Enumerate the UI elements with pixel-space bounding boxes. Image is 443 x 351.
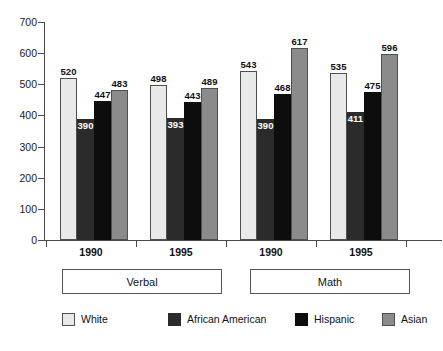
x-tick-separator <box>316 240 317 247</box>
bar-asian-math-1995 <box>381 54 398 240</box>
legend-item-asian: Asian <box>382 310 427 328</box>
plot-area: 5203904474834983934434895433904686175354… <box>44 22 443 240</box>
bar-value-label: 520 <box>58 67 79 77</box>
subject-box-verbal: Verbal <box>62 269 222 294</box>
bar-chart: 0100200300400500600700 52039044748349839… <box>0 0 443 351</box>
bar-asian-math-1990 <box>291 48 308 240</box>
x-tick-separator <box>406 240 407 247</box>
chart-legend: WhiteAfrican AmericanHispanicAsian <box>0 310 443 332</box>
x-tick-separator <box>136 240 137 247</box>
y-tick-label-500: 500 <box>5 79 37 89</box>
x-tick-separator <box>226 240 227 247</box>
bar-value-label: 543 <box>238 60 259 70</box>
bar-value-label: 535 <box>328 62 349 72</box>
y-tick-label-200: 200 <box>5 173 37 183</box>
x-axis-year-label: 1990 <box>46 247 136 258</box>
x-axis-year-label: 1995 <box>136 247 226 258</box>
legend-swatch-hispanic <box>295 313 308 326</box>
bar-white-verbal-1995 <box>150 85 167 240</box>
y-tick-label-0: 0 <box>5 235 37 245</box>
bar-african-american-math-1990 <box>257 119 274 240</box>
bar-value-label: 498 <box>148 74 169 84</box>
y-tick-0 <box>38 240 45 241</box>
bar-value-label: 475 <box>362 81 383 91</box>
bar-hispanic-math-1995 <box>364 92 381 240</box>
bar-african-american-verbal-1990 <box>77 119 94 240</box>
legend-label: African American <box>187 313 266 325</box>
bar-value-label: 617 <box>289 37 310 47</box>
x-axis-year-label: 1995 <box>316 247 406 258</box>
bar-african-american-math-1995 <box>347 112 364 240</box>
bar-hispanic-verbal-1995 <box>184 102 201 240</box>
legend-item-hispanic: Hispanic <box>295 310 354 328</box>
bar-value-label: 393 <box>165 120 186 130</box>
y-tick-label-600: 600 <box>5 48 37 58</box>
bar-value-label: 596 <box>379 43 400 53</box>
legend-item-white: White <box>62 310 108 328</box>
x-tick-separator <box>46 240 47 247</box>
bar-hispanic-math-1990 <box>274 94 291 240</box>
bar-value-label: 411 <box>345 114 366 124</box>
legend-label: Hispanic <box>314 313 354 325</box>
bar-value-label: 390 <box>75 121 96 131</box>
x-axis-year-label: 1990 <box>226 247 316 258</box>
bar-asian-verbal-1995 <box>201 88 218 240</box>
legend-swatch-african-american <box>168 313 181 326</box>
bar-white-math-1990 <box>240 71 257 240</box>
bar-value-label: 489 <box>199 77 220 87</box>
bar-value-label: 390 <box>255 121 276 131</box>
bar-white-verbal-1990 <box>60 78 77 240</box>
bar-asian-verbal-1990 <box>111 90 128 240</box>
bar-value-label: 443 <box>182 91 203 101</box>
y-tick-label-300: 300 <box>5 142 37 152</box>
bar-value-label: 483 <box>109 79 130 89</box>
legend-item-african-american: African American <box>168 310 266 328</box>
y-tick-label-100: 100 <box>5 204 37 214</box>
subject-box-math: Math <box>250 269 410 294</box>
legend-swatch-white <box>62 313 75 326</box>
legend-label: White <box>81 313 108 325</box>
y-tick-label-700: 700 <box>5 17 37 27</box>
bar-value-label: 468 <box>272 83 293 93</box>
bar-hispanic-verbal-1990 <box>94 101 111 240</box>
x-axis-line <box>44 240 442 241</box>
bar-white-math-1995 <box>330 73 347 240</box>
bar-african-american-verbal-1995 <box>167 118 184 240</box>
y-tick-label-400: 400 <box>5 110 37 120</box>
legend-label: Asian <box>401 313 427 325</box>
bar-value-label: 447 <box>92 90 113 100</box>
legend-swatch-asian <box>382 313 395 326</box>
